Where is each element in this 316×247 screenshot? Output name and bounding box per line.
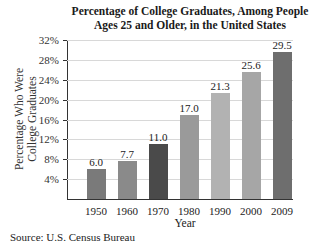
x-tick-label: 1950 bbox=[81, 205, 111, 217]
y-tick bbox=[63, 139, 67, 140]
y-tick bbox=[63, 120, 67, 121]
y-tick-label: 24% bbox=[19, 74, 59, 86]
y-tick bbox=[63, 40, 67, 41]
x-axis bbox=[67, 199, 293, 200]
y-tick-label: 32% bbox=[19, 34, 59, 46]
bar-1970 bbox=[149, 144, 168, 199]
bar-value-label: 29.5 bbox=[267, 39, 297, 51]
x-axis-label: Year bbox=[165, 217, 205, 229]
y-tick-label: 20% bbox=[19, 94, 59, 106]
bar-1950 bbox=[87, 169, 106, 199]
bar-2000 bbox=[242, 72, 261, 199]
y-tick-label: 12% bbox=[19, 133, 59, 145]
bar-value-label: 6.0 bbox=[81, 156, 111, 168]
x-tick-label: 1980 bbox=[174, 205, 204, 217]
x-tick-label: 1970 bbox=[143, 205, 173, 217]
chart-title-line-2: Ages 25 and Older, in the United States bbox=[70, 18, 310, 32]
y-tick-label: 16% bbox=[19, 114, 59, 126]
bar-2009 bbox=[273, 52, 292, 199]
x-tick-label: 1990 bbox=[205, 205, 235, 217]
x-tick-label: 1960 bbox=[112, 205, 142, 217]
bar-value-label: 17.0 bbox=[174, 102, 204, 114]
bar-value-label: 21.3 bbox=[205, 80, 235, 92]
bar-1980 bbox=[180, 115, 199, 199]
source-note: Source: U.S. Census Bureau bbox=[10, 231, 135, 243]
chart-title-line-1: Percentage of College Graduates, Among P… bbox=[70, 4, 310, 18]
y-tick bbox=[63, 60, 67, 61]
bar-value-label: 25.6 bbox=[236, 59, 266, 71]
y-tick bbox=[63, 179, 67, 180]
bar-1990 bbox=[211, 93, 230, 199]
y-tick bbox=[63, 80, 67, 81]
y-tick bbox=[63, 159, 67, 160]
x-tick-label: 2009 bbox=[267, 205, 297, 217]
bar-value-label: 11.0 bbox=[143, 131, 173, 143]
plot-area: 6.07.711.017.021.325.629.5 bbox=[67, 40, 293, 199]
gridline bbox=[67, 40, 293, 41]
chart-title: Percentage of College Graduates, Among P… bbox=[70, 4, 310, 32]
bar-1960 bbox=[118, 161, 137, 199]
x-tick-label: 2000 bbox=[236, 205, 266, 217]
y-tick-label: 4% bbox=[19, 173, 59, 185]
y-tick-label: 28% bbox=[19, 54, 59, 66]
bar-value-label: 7.7 bbox=[112, 148, 142, 160]
y-tick bbox=[63, 100, 67, 101]
y-tick-label: 8% bbox=[19, 153, 59, 165]
